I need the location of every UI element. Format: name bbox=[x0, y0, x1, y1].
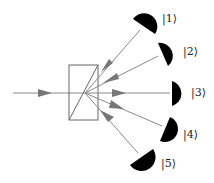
detector-4 bbox=[160, 117, 178, 142]
detector-4-label: |4⟩ bbox=[183, 129, 198, 140]
input-beam bbox=[13, 89, 85, 97]
ray-4 bbox=[85, 93, 162, 126]
arrow-icon bbox=[100, 110, 114, 122]
arrow-icon bbox=[109, 100, 124, 109]
detector-1-label: |1⟩ bbox=[162, 13, 177, 24]
detector-3 bbox=[172, 81, 181, 106]
diagram-canvas bbox=[0, 0, 214, 183]
detector-2-label: |2⟩ bbox=[183, 46, 198, 57]
ray-2 bbox=[85, 56, 158, 93]
ray-1 bbox=[85, 30, 140, 93]
arrow-icon bbox=[101, 59, 113, 72]
detector-1 bbox=[133, 13, 157, 34]
arrow-right-icon bbox=[38, 89, 52, 97]
arrow-right-icon bbox=[112, 89, 126, 97]
detector-2 bbox=[158, 43, 173, 66]
detector-5 bbox=[130, 149, 156, 171]
detector-5-label: |5⟩ bbox=[161, 158, 176, 169]
arrow-icon bbox=[103, 73, 119, 83]
detector-3-label: |3⟩ bbox=[191, 87, 206, 98]
